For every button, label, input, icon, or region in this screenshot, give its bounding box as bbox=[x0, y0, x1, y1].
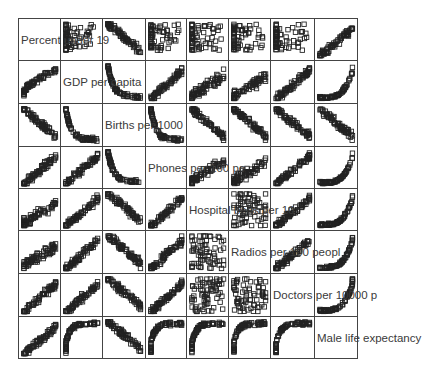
scatter-points bbox=[229, 147, 270, 188]
scatter-panel bbox=[314, 273, 358, 317]
scatter-panel bbox=[314, 230, 358, 274]
scatter-points bbox=[229, 189, 270, 230]
scatter-panel bbox=[228, 103, 271, 147]
scatter-panel bbox=[18, 316, 61, 359]
scatter-points bbox=[146, 231, 186, 273]
diagonal-label-cell: Births per 1000 bbox=[102, 103, 146, 147]
diagonal-label-cell: GDP per capita bbox=[60, 60, 103, 104]
scatter-panel bbox=[60, 18, 103, 61]
scatter-points bbox=[103, 231, 145, 273]
diagonal-label-cell: Hospital beds per 10 bbox=[186, 188, 229, 231]
scatter-points bbox=[271, 61, 314, 103]
scatter-points bbox=[146, 274, 186, 316]
scatter-panel bbox=[145, 316, 187, 359]
scatter-panel bbox=[228, 146, 271, 189]
scatter-panel bbox=[186, 273, 229, 317]
scatter-points bbox=[19, 61, 60, 103]
scatter-points bbox=[103, 147, 145, 188]
scatter-points bbox=[187, 274, 228, 316]
scatter-points bbox=[271, 147, 314, 188]
scatter-panel bbox=[145, 103, 187, 147]
scatter-panel bbox=[186, 230, 229, 274]
scatter-points bbox=[103, 61, 145, 103]
scatter-points bbox=[146, 189, 186, 230]
scatter-points bbox=[103, 274, 145, 316]
scatter-points bbox=[271, 189, 314, 230]
scatter-panel bbox=[145, 188, 187, 231]
scatter-panel bbox=[270, 188, 315, 231]
scatter-points bbox=[315, 231, 357, 273]
scatter-points bbox=[61, 19, 102, 60]
scatter-panel bbox=[228, 188, 271, 231]
scatter-points bbox=[271, 104, 314, 146]
scatter-points bbox=[19, 274, 60, 316]
scatter-points bbox=[315, 274, 357, 316]
scatterplot-matrix: Percent under 19GDP per capitaBirths per… bbox=[18, 18, 357, 358]
scatter-panel bbox=[102, 188, 146, 231]
scatter-panel bbox=[145, 273, 187, 317]
scatter-panel bbox=[186, 103, 229, 147]
scatter-panel bbox=[60, 103, 103, 147]
scatter-points bbox=[315, 19, 357, 60]
scatter-panel bbox=[145, 18, 187, 61]
scatter-points bbox=[315, 61, 357, 103]
scatter-panel bbox=[18, 230, 61, 274]
scatter-points bbox=[19, 231, 60, 273]
scatter-panel bbox=[60, 230, 103, 274]
scatter-panel bbox=[186, 316, 229, 359]
scatter-panel bbox=[228, 18, 271, 61]
diagonal-label-cell: Percent under 19 bbox=[18, 18, 61, 61]
scatter-points bbox=[103, 19, 145, 60]
scatter-panel bbox=[18, 60, 61, 104]
scatter-points bbox=[315, 104, 357, 146]
scatter-points bbox=[19, 189, 60, 230]
scatter-points bbox=[61, 274, 102, 316]
diagonal-label-cell: Male life expectancy bbox=[314, 316, 358, 359]
diagonal-label-cell: Radios per 100 peopl bbox=[228, 230, 271, 274]
scatter-panel bbox=[18, 188, 61, 231]
scatter-points bbox=[271, 231, 314, 273]
scatter-panel bbox=[102, 18, 146, 61]
scatter-panel bbox=[270, 60, 315, 104]
scatter-points bbox=[315, 147, 357, 188]
scatter-points bbox=[187, 317, 228, 358]
scatter-points bbox=[61, 104, 102, 146]
scatter-points bbox=[229, 104, 270, 146]
scatter-panel bbox=[18, 146, 61, 189]
scatter-panel bbox=[228, 60, 271, 104]
scatter-points bbox=[187, 104, 228, 146]
scatter-panel bbox=[228, 273, 271, 317]
scatter-points bbox=[229, 274, 270, 316]
scatter-panel bbox=[228, 316, 271, 359]
scatter-points bbox=[103, 317, 145, 358]
scatter-points bbox=[146, 19, 186, 60]
scatter-points bbox=[229, 19, 270, 60]
scatter-points bbox=[187, 19, 228, 60]
scatter-panel bbox=[270, 18, 315, 61]
scatter-points bbox=[103, 189, 145, 230]
variable-label: Male life expectancy bbox=[317, 332, 421, 344]
scatter-points bbox=[271, 317, 314, 358]
scatter-panel bbox=[60, 188, 103, 231]
scatter-points bbox=[19, 147, 60, 188]
scatter-points bbox=[187, 147, 228, 188]
scatter-points bbox=[61, 317, 102, 358]
scatter-panel bbox=[145, 230, 187, 274]
scatter-panel bbox=[60, 273, 103, 317]
scatter-panel bbox=[314, 103, 358, 147]
scatter-panel bbox=[314, 18, 358, 61]
scatter-panel bbox=[314, 188, 358, 231]
scatter-points bbox=[61, 189, 102, 230]
scatter-points bbox=[146, 317, 186, 358]
scatter-points bbox=[146, 61, 186, 103]
diagonal-label-cell: Doctors per 10000 p bbox=[270, 273, 315, 317]
scatter-panel bbox=[18, 103, 61, 147]
scatter-panel bbox=[60, 316, 103, 359]
scatter-panel bbox=[102, 146, 146, 189]
scatter-panel bbox=[145, 60, 187, 104]
scatter-points bbox=[187, 61, 228, 103]
scatter-panel bbox=[270, 230, 315, 274]
scatter-panel bbox=[102, 60, 146, 104]
scatter-points bbox=[229, 317, 270, 358]
scatter-panel bbox=[18, 273, 61, 317]
